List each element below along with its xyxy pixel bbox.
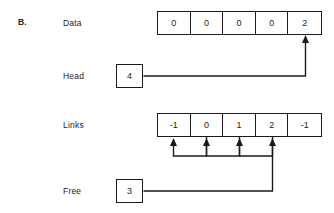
data-cell-4: 2: [288, 12, 321, 34]
data-cell-1: 0: [191, 12, 224, 34]
links-2-to-1-pointer: [203, 137, 240, 156]
links-cell-3: 2: [256, 114, 289, 136]
data-cell-0: 0: [158, 12, 191, 34]
data-cell-3: 0: [256, 12, 289, 34]
links-1-to-0-pointer: [170, 137, 207, 156]
links-cell-0: -1: [158, 114, 191, 136]
diagram-canvas: B. Data Head Links Free 0 0 0 0 2 -1 0 1…: [0, 0, 334, 213]
head-value-box: 4: [116, 64, 143, 88]
links-cell-1: 0: [191, 114, 224, 136]
links-3-to-2-pointer: [236, 137, 273, 156]
data-array: 0 0 0 0 2: [157, 11, 322, 35]
data-row-label: Data: [63, 19, 82, 28]
part-label: B.: [18, 18, 27, 27]
free-to-links-pointer: [144, 138, 277, 191]
free-row-label: Free: [63, 187, 81, 196]
free-value-box: 3: [116, 179, 143, 203]
links-row-label: Links: [63, 121, 84, 130]
head-to-data-pointer: [144, 35, 310, 76]
links-cell-2: 1: [223, 114, 256, 136]
head-row-label: Head: [63, 72, 84, 81]
links-cell-4: -1: [288, 114, 321, 136]
data-cell-2: 0: [223, 12, 256, 34]
links-array: -1 0 1 2 -1: [157, 113, 322, 137]
